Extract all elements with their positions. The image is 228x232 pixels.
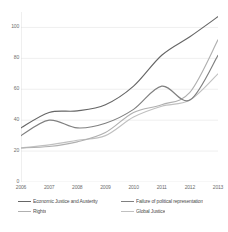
series-line — [21, 17, 218, 128]
plot-area — [21, 12, 218, 182]
legend-item[interactable]: Global Justice — [121, 206, 224, 216]
plot-svg — [21, 12, 218, 182]
legend-label: Global Justice — [136, 208, 165, 214]
x-tick-label: 2006 — [16, 184, 26, 190]
legend-label: Failure of political representation — [136, 198, 203, 204]
y-tick-label: 40 — [14, 117, 19, 122]
series-line — [21, 55, 218, 135]
legend-label: Economic Justice and Austerity — [33, 198, 98, 204]
legend-label: Rights — [33, 208, 46, 214]
series-line — [21, 40, 218, 148]
legend-item[interactable]: Failure of political representation — [121, 196, 224, 206]
x-tick-label: 2007 — [44, 184, 54, 190]
caption-strip — [0, 222, 228, 232]
x-tick-label: 2012 — [185, 184, 195, 190]
chart-legend: Economic Justice and AusterityFailure of… — [18, 196, 224, 216]
legend-item[interactable]: Rights — [18, 206, 121, 216]
y-axis: 020406080100 — [0, 0, 19, 190]
y-tick-label: 80 — [14, 55, 19, 60]
x-tick-label: 2009 — [100, 184, 110, 190]
y-tick-label: 100 — [11, 24, 19, 29]
y-tick-label: 60 — [14, 86, 19, 91]
x-tick-label: 2010 — [128, 184, 138, 190]
x-tick-label: 2011 — [157, 184, 167, 190]
legend-item[interactable]: Economic Justice and Austerity — [18, 196, 121, 206]
legend-line-icon — [18, 211, 31, 212]
x-tick-label: 2013 — [213, 184, 223, 190]
legend-line-icon — [18, 201, 31, 202]
legend-line-icon — [121, 201, 134, 202]
line-chart: 020406080100 200620072008200920102011201… — [0, 0, 228, 232]
legend-line-icon — [121, 211, 134, 212]
y-tick-label: 20 — [14, 148, 19, 153]
series-line — [21, 74, 218, 148]
x-axis: 20062007200820092010201120122013 — [21, 183, 218, 193]
x-tick-label: 2008 — [72, 184, 82, 190]
